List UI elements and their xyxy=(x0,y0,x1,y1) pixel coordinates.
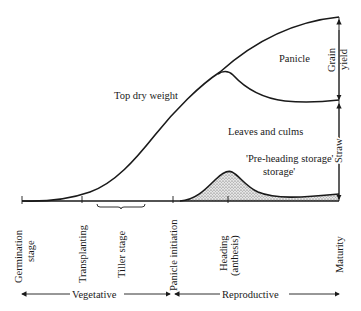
stage-germination-2: stage xyxy=(25,240,36,262)
leaves-culms-curve xyxy=(218,72,339,103)
label-vegetative: Vegetative xyxy=(72,289,117,300)
label-yield: yield xyxy=(338,48,349,70)
label-storage: storage' xyxy=(263,166,295,177)
label-reproductive: Reproductive xyxy=(222,289,279,300)
label-straw: Straw xyxy=(333,138,344,163)
label-grain: Grain xyxy=(326,47,337,72)
stage-transplanting: Transplanting xyxy=(77,224,88,283)
tiller-stage-bracket xyxy=(97,204,145,209)
stage-panicle-initiation: Panicle initiation xyxy=(168,219,179,291)
label-leaves-culms: Leaves and culms xyxy=(228,126,303,137)
label-top-dry-weight: Top dry weight xyxy=(114,90,178,101)
stage-heading-1: Heading xyxy=(218,235,229,271)
stage-tiller: Tiller stage xyxy=(116,231,127,278)
stage-heading-2: (anthesis) xyxy=(229,235,241,276)
growth-diagram: Top dry weight Panicle Leaves and culms … xyxy=(0,0,361,311)
label-panicle: Panicle xyxy=(279,53,310,64)
label-pre-heading-storage: 'Pre-heading storage' xyxy=(246,153,334,164)
stage-germination-1: Germination xyxy=(13,229,24,283)
stage-maturity: Maturity xyxy=(334,236,345,273)
